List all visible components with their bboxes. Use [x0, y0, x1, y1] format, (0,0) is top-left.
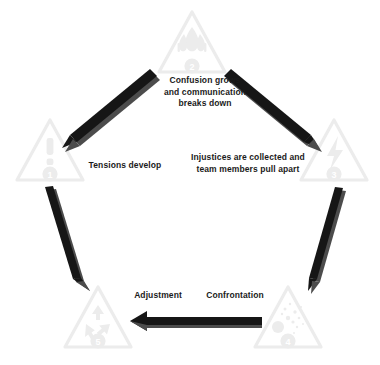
node-1-number: 1 — [47, 170, 52, 180]
node-4-number: 4 — [285, 337, 290, 347]
node-3-number: 3 — [331, 170, 336, 180]
edge-3-to-4-arrow — [308, 187, 346, 294]
cycle-graphics: 1 2 3 — [0, 0, 380, 365]
edge-label-confrontation: Confrontation — [196, 290, 274, 302]
node-label-confusion: Confusion grows and communication breaks… — [150, 75, 260, 110]
edge-label-tensions-develop: Tensions develop — [82, 160, 168, 172]
edge-2-to-1-arrow — [62, 69, 160, 152]
node-5-number: 5 — [95, 337, 100, 347]
conflict-cycle-diagram: 1 2 3 — [0, 0, 380, 365]
node-1-group[interactable]: 1 — [17, 120, 83, 182]
edge-1-to-5-arrow — [45, 186, 90, 291]
node-2-number: 2 — [189, 62, 194, 72]
lightning-bolt-icon — [327, 136, 343, 170]
exclamation-warning-icon — [47, 138, 54, 165]
edge-label-injustices: Injustices are collected and team member… — [184, 152, 312, 175]
edge-4-to-5-arrow — [130, 311, 262, 331]
edge-label-adjustment: Adjustment — [122, 290, 194, 302]
node-2-group[interactable]: 2 — [159, 12, 225, 74]
